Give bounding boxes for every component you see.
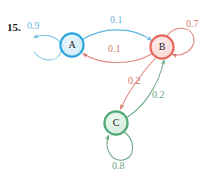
edge-label-c-to-b: 0.2 (152, 90, 165, 100)
edge-a-to-a-self-loop (34, 35, 62, 60)
state-label-b: B (152, 42, 172, 52)
edge-label-a-to-b: 0.1 (110, 15, 123, 25)
edge-label-b-self: 0.7 (186, 19, 199, 29)
diagram-page: 15. (0, 0, 208, 180)
edge-label-c-self: 0.8 (112, 161, 125, 171)
edge-label-b-to-a: 0.1 (108, 44, 121, 54)
edge-a-to-b (83, 30, 152, 41)
edge-label-a-self: 0.9 (27, 21, 40, 31)
edge-b-to-a (83, 54, 152, 63)
edge-label-b-to-c: 0.2 (128, 76, 141, 86)
edge-c-to-c-self-loop (107, 132, 132, 160)
state-label-a: A (62, 40, 82, 50)
state-label-c: C (106, 118, 126, 128)
